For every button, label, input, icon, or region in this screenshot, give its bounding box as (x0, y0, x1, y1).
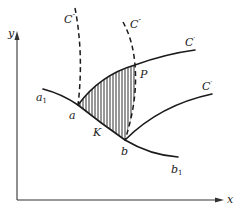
label-mark: ′ (193, 36, 195, 44)
label-text: b (171, 163, 178, 176)
initial-curve-a1-b1 (43, 89, 178, 157)
label-mark: ′ (210, 80, 212, 88)
label-mark: ″ (138, 18, 141, 26)
point-p-label: P (140, 69, 147, 80)
point-k-label: K (93, 127, 101, 138)
c-double-prime-left-label: C″ (64, 14, 75, 25)
a1-label: a1 (36, 92, 47, 105)
c-double-prime-left-curve (75, 8, 80, 105)
x-axis-arrow-icon (215, 198, 224, 203)
c-prime-lower-curve (125, 94, 212, 140)
c-double-prime-right-label: C″ (130, 19, 141, 30)
label-subscript: 1 (43, 97, 47, 105)
characteristics-diagram (0, 0, 241, 215)
x-axis-label: x (227, 194, 233, 205)
point-b-label: b (121, 146, 128, 157)
label-subscript: 1 (178, 169, 182, 177)
hatched-region (80, 55, 134, 150)
c-prime-lower-label: C′ (202, 81, 212, 92)
point-a-label: a (69, 110, 76, 121)
c-prime-upper-curve (78, 50, 195, 105)
label-mark: ″ (72, 13, 75, 21)
c-prime-upper-label: C′ (185, 37, 195, 48)
y-axis-label: y (8, 28, 14, 39)
b1-label: b1 (171, 164, 183, 177)
y-axis-arrow-icon (15, 31, 20, 40)
